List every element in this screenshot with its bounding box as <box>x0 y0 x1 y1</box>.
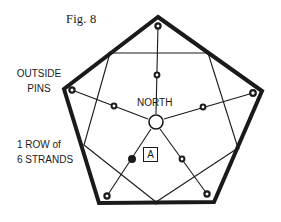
pin-upper-left <box>69 87 74 92</box>
marker-a-box: A <box>143 147 158 162</box>
pin-upper-right <box>250 90 256 96</box>
spoke-pin-west <box>112 104 117 109</box>
north-label: NORTH <box>137 96 172 111</box>
row-strands-label: 1 ROW of 6 STRANDS <box>17 138 73 167</box>
spoke-pin-southwest <box>129 156 135 162</box>
pin-top <box>155 23 160 28</box>
pin-lower-left <box>104 193 109 198</box>
figure-title: Fig. 8 <box>66 12 96 27</box>
crossing-strands <box>70 53 254 202</box>
row-strands-label-line2: 6 STRANDS <box>17 153 73 168</box>
outside-pins-label-line1: OUTSIDE <box>15 67 63 82</box>
center-ring <box>149 115 163 129</box>
pin-lower-right <box>204 191 209 196</box>
spoke-pin-southeast <box>180 157 185 162</box>
outside-pins-label-line2: PINS <box>15 82 63 97</box>
figure-8-diagram: Fig. 8 OUTSIDE PINS 1 ROW of 6 STRANDS N… <box>0 0 281 222</box>
spoke-pin-east <box>201 105 206 110</box>
outside-pins-label: OUTSIDE PINS <box>15 67 63 96</box>
row-strands-label-line1: 1 ROW of <box>17 138 73 153</box>
pentagon-strand-diagram <box>0 0 281 222</box>
spoke-pin-north <box>155 73 160 78</box>
